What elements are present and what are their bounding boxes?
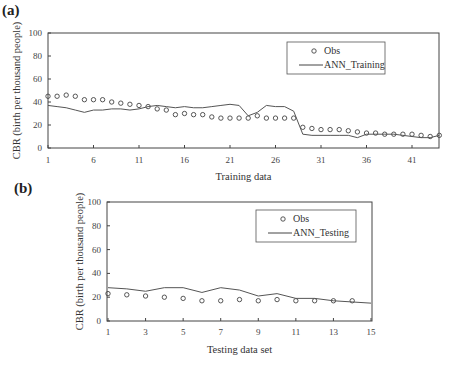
y-tick-label: 100 [29, 28, 43, 38]
y-tick-label: 40 [33, 97, 43, 107]
obs-marker [106, 291, 110, 295]
legend-label-ann: ANN_Training [324, 59, 385, 70]
x-tick-label: 41 [408, 155, 417, 165]
y-tick-label: 0 [38, 143, 43, 153]
obs-marker [91, 98, 95, 102]
y-tick-label: 80 [92, 221, 102, 231]
x-tick-label: 6 [91, 155, 96, 165]
obs-marker [143, 294, 147, 298]
x-tick-label: 9 [256, 327, 261, 337]
x-axis-title-b: Testing data set [207, 344, 272, 355]
obs-marker [264, 116, 268, 120]
x-tick-label: 3 [143, 327, 148, 337]
x-axis-title-a: Training data [216, 171, 272, 182]
obs-marker [282, 116, 286, 120]
obs-marker [301, 125, 305, 129]
y-tick-label: 40 [92, 268, 102, 278]
y-tick-label: 80 [33, 51, 43, 61]
obs-marker [162, 295, 166, 299]
x-tick-label: 1 [106, 327, 111, 337]
obs-marker [246, 116, 250, 120]
y-tick-label: 0 [97, 316, 102, 326]
obs-marker [292, 116, 296, 120]
obs-marker [191, 112, 195, 116]
y-tick-label: 20 [33, 120, 43, 130]
obs-marker [64, 93, 68, 97]
obs-marker [100, 98, 104, 102]
obs-marker [110, 100, 114, 104]
x-tick-label: 7 [218, 327, 223, 337]
chart-canvas: 0204060801001611162126313641Training dat… [0, 0, 452, 365]
x-tick-label: 11 [135, 155, 144, 165]
obs-marker [219, 299, 223, 303]
obs-marker [219, 116, 223, 120]
obs-marker [73, 94, 77, 98]
obs-marker [173, 112, 177, 116]
legend-label-obs: Obs [293, 213, 309, 224]
legend-label-ann: ANN_Testing [293, 227, 349, 238]
obs-marker [328, 127, 332, 131]
obs-marker [255, 114, 259, 118]
x-tick-label: 36 [362, 155, 372, 165]
x-tick-label: 21 [226, 155, 235, 165]
obs-marker [125, 293, 129, 297]
obs-marker [201, 112, 205, 116]
x-tick-label: 1 [46, 155, 51, 165]
obs-marker [155, 107, 159, 111]
obs-marker [164, 108, 168, 112]
obs-marker [419, 133, 423, 137]
obs-marker [355, 130, 359, 134]
x-tick-label: 15 [367, 327, 377, 337]
obs-marker [310, 126, 314, 130]
obs-marker [237, 297, 241, 301]
obs-marker [182, 111, 186, 115]
obs-marker [237, 116, 241, 120]
x-tick-label: 11 [292, 327, 301, 337]
obs-marker [337, 127, 341, 131]
obs-marker [256, 299, 260, 303]
obs-marker [294, 299, 298, 303]
obs-marker [319, 127, 323, 131]
y-tick-label: 20 [92, 292, 102, 302]
y-tick-label: 60 [33, 74, 43, 84]
obs-marker [55, 94, 59, 98]
obs-marker [181, 296, 185, 300]
obs-marker [410, 132, 414, 136]
obs-marker [273, 116, 277, 120]
y-tick-label: 100 [88, 197, 102, 207]
x-tick-label: 5 [181, 327, 186, 337]
x-tick-label: 13 [329, 327, 339, 337]
obs-marker [82, 98, 86, 102]
obs-marker [346, 129, 350, 133]
x-tick-label: 16 [180, 155, 190, 165]
y-tick-label: 60 [92, 245, 102, 255]
obs-marker [228, 116, 232, 120]
x-tick-label: 26 [271, 155, 281, 165]
obs-marker [275, 297, 279, 301]
y-axis-title-b: CBR (birth per thousand people) [74, 192, 86, 330]
obs-marker [119, 101, 123, 105]
obs-marker [128, 102, 132, 106]
x-tick-label: 31 [317, 155, 326, 165]
y-axis-title-a: CBR (birth per thousand people) [11, 21, 23, 159]
obs-marker [312, 299, 316, 303]
series-line-ANN_Training [48, 104, 439, 137]
obs-marker [200, 299, 204, 303]
obs-marker [210, 115, 214, 119]
obs-marker [137, 103, 141, 107]
legend-label-obs: Obs [324, 45, 340, 56]
